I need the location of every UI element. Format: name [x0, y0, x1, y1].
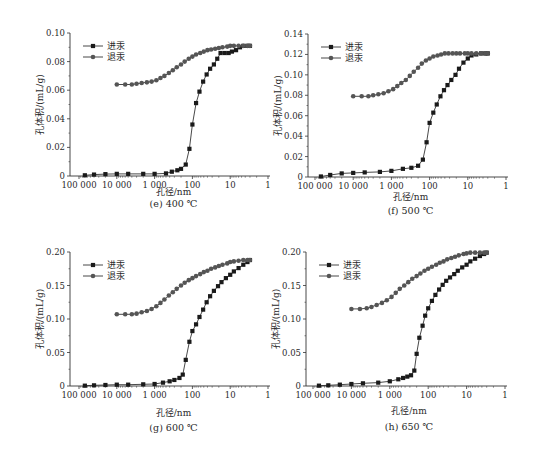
data-point	[171, 68, 176, 73]
data-point	[167, 293, 172, 298]
data-point	[363, 170, 367, 174]
data-point	[83, 173, 87, 177]
data-point	[366, 94, 371, 99]
y-tick-label: 0.15	[282, 281, 301, 291]
y-axis-title: 孔体积/(mL/g)	[34, 74, 45, 134]
data-point	[241, 258, 246, 263]
data-point	[161, 381, 165, 385]
data-point	[456, 269, 460, 273]
data-point	[441, 283, 445, 287]
x-tick-label: 100 000	[297, 181, 332, 191]
data-point	[212, 62, 216, 66]
data-point	[162, 297, 167, 302]
data-point	[126, 172, 130, 176]
data-point	[115, 383, 119, 387]
data-point	[153, 382, 157, 386]
data-point	[216, 284, 220, 288]
data-point	[201, 308, 205, 312]
data-point	[351, 94, 356, 99]
data-point	[149, 79, 154, 84]
data-point	[409, 166, 413, 170]
legend-label: 进汞	[107, 41, 125, 51]
data-point	[448, 275, 452, 279]
panel-caption: (g) 600 ℃	[149, 422, 198, 433]
data-point	[388, 379, 392, 383]
data-point	[426, 306, 430, 310]
chart-panel-g: 00.050.100.150.20100 00010 0001 00010010…	[34, 247, 271, 433]
legend-label: 退汞	[107, 271, 125, 281]
data-point	[171, 290, 176, 295]
data-point	[241, 44, 246, 49]
y-axis-title: 孔体积/(mL/g)	[272, 75, 283, 135]
data-point	[223, 51, 227, 55]
x-tick-label: 1	[502, 390, 507, 400]
data-point	[248, 44, 253, 49]
chart-panel-f: 00.020.040.060.080.100.120.14100 00010 0…	[272, 29, 509, 216]
data-point	[319, 174, 323, 178]
data-point	[359, 94, 364, 99]
y-axis-title: 孔体积/(mL/g)	[270, 289, 281, 349]
data-point	[115, 312, 120, 317]
x-axis-title: 孔径/nm	[156, 407, 192, 418]
data-point	[139, 310, 144, 315]
data-point	[456, 253, 461, 258]
data-point	[184, 162, 188, 166]
data-point	[194, 322, 198, 326]
data-point	[149, 307, 154, 312]
data-point	[126, 383, 130, 387]
data-point	[115, 172, 119, 176]
data-point	[190, 329, 194, 333]
data-point	[437, 287, 441, 291]
data-point	[399, 81, 404, 86]
data-point	[446, 51, 451, 56]
data-point	[130, 312, 135, 317]
data-point	[433, 293, 437, 297]
data-point	[141, 382, 145, 386]
data-point	[134, 311, 139, 316]
data-point	[468, 259, 472, 263]
x-tick-label: 10	[225, 390, 236, 400]
data-point	[457, 67, 461, 71]
series-line	[321, 53, 488, 176]
x-tick-label: 10	[225, 180, 236, 190]
x-tick-label: 10 000	[338, 181, 368, 191]
data-point	[444, 279, 448, 283]
data-point	[369, 305, 374, 310]
data-point	[219, 280, 223, 284]
y-tick-label: 0.10	[46, 28, 65, 38]
data-point	[485, 51, 490, 56]
legend-square-marker-icon	[91, 44, 95, 48]
data-point	[170, 170, 174, 174]
data-point	[474, 51, 479, 56]
data-point	[378, 170, 382, 174]
data-point	[134, 81, 139, 86]
data-point	[139, 81, 144, 86]
data-point	[154, 304, 159, 309]
x-tick-label: 10	[462, 181, 473, 191]
series-line	[85, 46, 250, 175]
data-point	[220, 262, 225, 267]
legend-circle-marker-icon	[91, 55, 96, 60]
x-tick-label: 100	[421, 181, 437, 191]
legend-square-marker-icon	[91, 263, 95, 267]
data-point	[351, 171, 355, 175]
data-point	[194, 52, 199, 57]
data-point	[83, 384, 87, 388]
data-point	[103, 383, 107, 387]
data-point	[358, 307, 363, 312]
data-point	[179, 62, 184, 67]
data-point	[194, 274, 199, 279]
data-point	[473, 257, 477, 261]
data-point	[461, 61, 465, 65]
data-point	[184, 358, 188, 362]
data-point	[380, 301, 385, 306]
x-tick-label: 100	[184, 390, 200, 400]
legend-square-marker-icon	[327, 263, 331, 267]
data-point	[182, 59, 187, 64]
series-line	[117, 260, 250, 314]
data-point	[158, 76, 163, 81]
legend-square-marker-icon	[329, 45, 333, 49]
data-point	[92, 383, 96, 387]
data-point	[167, 71, 172, 76]
data-point	[164, 171, 168, 175]
